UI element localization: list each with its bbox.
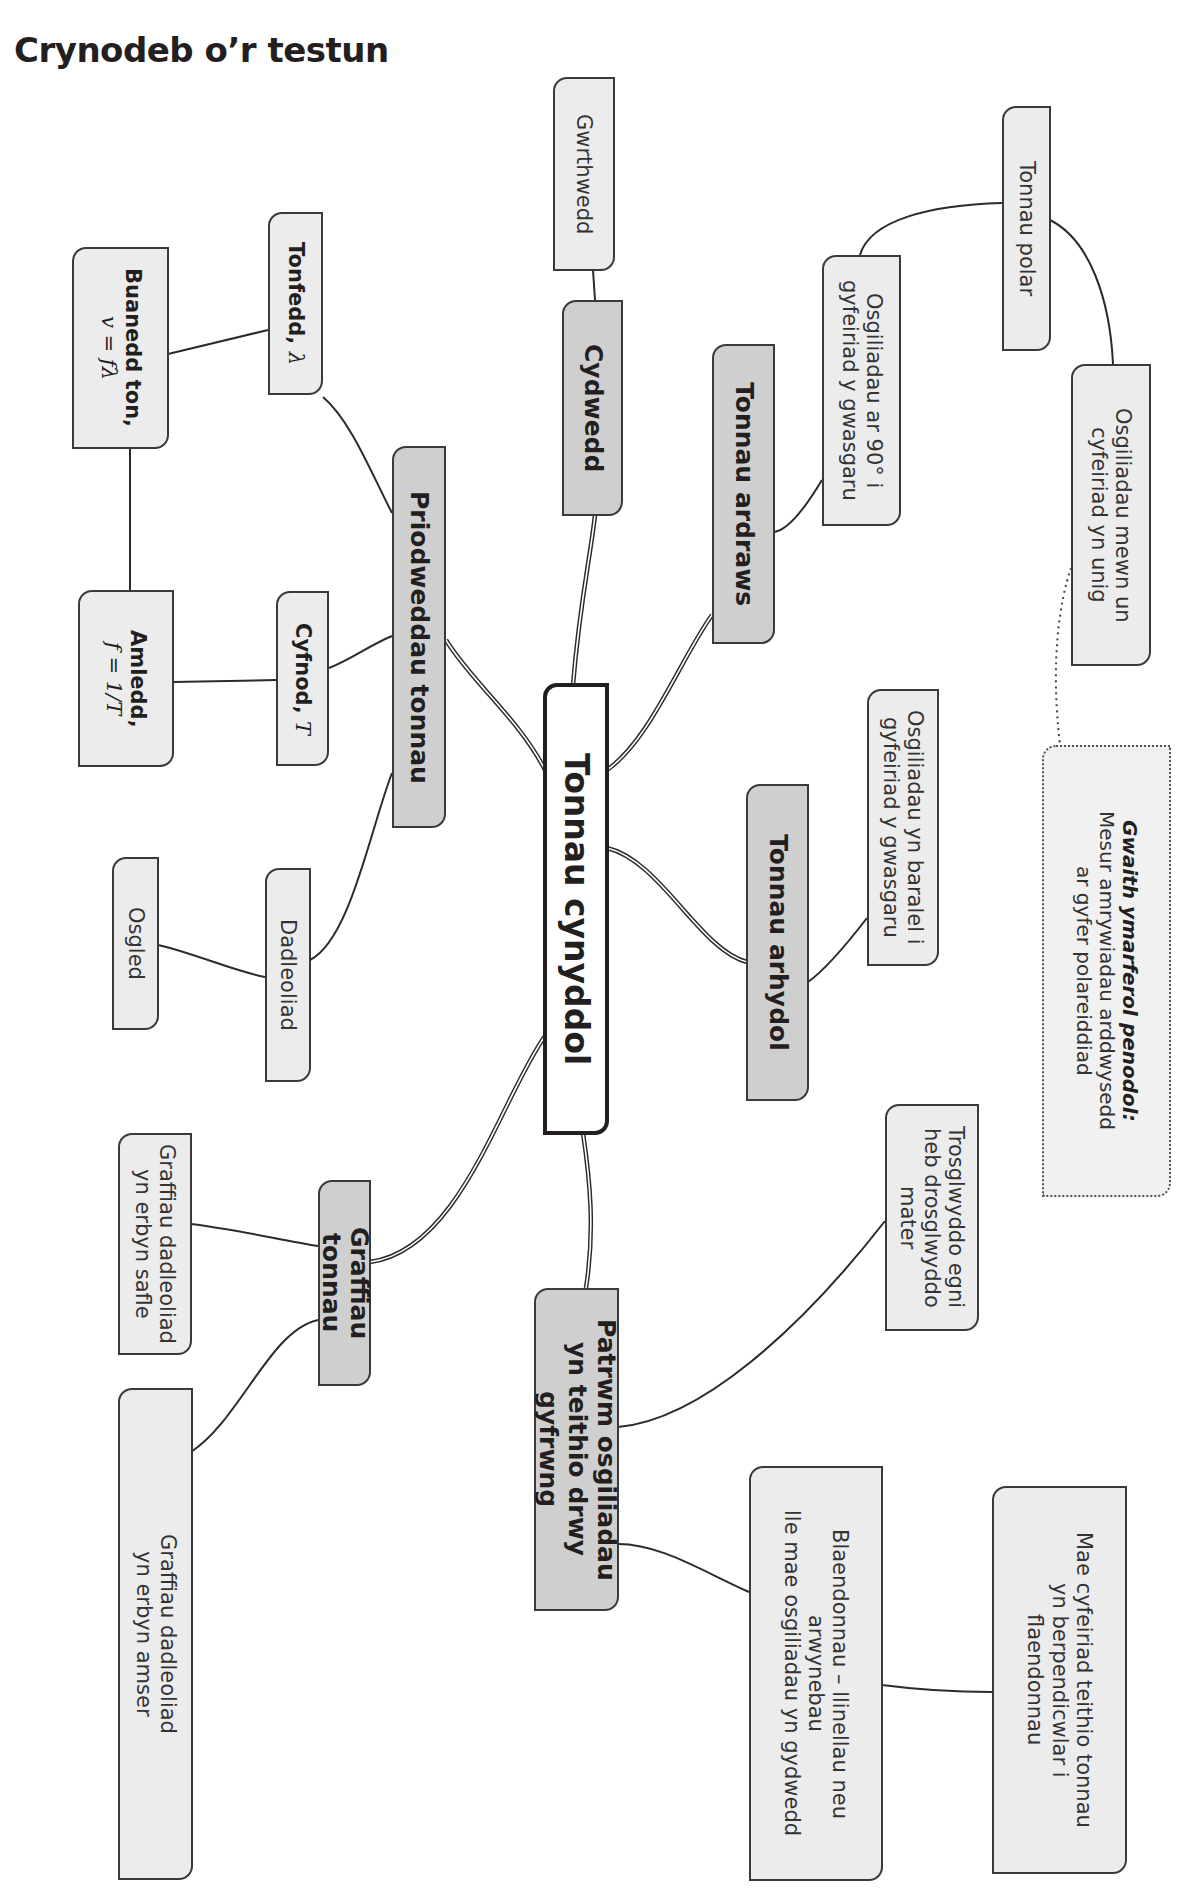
branch-transverse-waves: Tonnau ardraws bbox=[712, 344, 775, 644]
leaf-line2: yn erbyn safle bbox=[131, 1144, 155, 1344]
wave-speed-formula: v = fλ bbox=[96, 268, 120, 427]
leaf-label: Tonnau polar bbox=[1014, 161, 1038, 296]
leaf-displacement: Dadleoliad bbox=[265, 868, 311, 1082]
leaf-travel-direction: Mae cyfeiriad teithio tonnau yn berpendi… bbox=[992, 1486, 1127, 1874]
leaf-line2: gyfeiriad y gwasgaru bbox=[837, 280, 861, 501]
period-symbol: T bbox=[291, 720, 315, 734]
leaf-label: Gwrthwedd bbox=[572, 114, 596, 234]
leaf-line3: lle mae osgiliadau yn gydwedd bbox=[780, 1510, 804, 1836]
branch-label: Priodweddau tonnau bbox=[405, 491, 434, 784]
leaf-label: Amledd, bbox=[126, 630, 150, 728]
practical-note-line1: Mesur amrywiadau arddwysedd bbox=[1095, 811, 1118, 1130]
leaf-line1: Osgiliadau ar 90° i bbox=[862, 280, 886, 501]
leaf-line1: Blaendonnau – llinellau neu bbox=[828, 1510, 852, 1836]
branch-wave-properties: Priodweddau tonnau bbox=[392, 446, 446, 828]
branch-label: Tonnau ardraws bbox=[729, 382, 758, 606]
frequency-formula-lhs: f = bbox=[102, 642, 126, 674]
practical-note-line2: ar gyfer polareiddiad bbox=[1072, 811, 1095, 1130]
leaf-longitudinal-description: Osgiliadau yn baralel i gyfeiriad y gwas… bbox=[867, 689, 939, 966]
leaf-polarised-description: Osgiliadau mewn un cyfeiriad yn unig bbox=[1071, 364, 1151, 666]
leaf-graph-displacement-time: Graffiau dadleoliad yn erbyn amser bbox=[118, 1388, 193, 1880]
frequency-formula-den: T bbox=[102, 701, 126, 715]
branch-label: Tonnau arhydol bbox=[763, 834, 792, 1051]
leaf-graph-displacement-position: Graffiau dadleoliad yn erbyn safle bbox=[118, 1133, 192, 1355]
leaf-line1: Mae cyfeiriad teithio tonnau bbox=[1072, 1532, 1096, 1828]
leaf-antiphase: Gwrthwedd bbox=[553, 77, 615, 271]
branch-label-line1: Patrwm osgiliadau bbox=[591, 1290, 620, 1609]
leaf-line1: Graffiau dadleoliad bbox=[156, 1534, 180, 1734]
central-topic-label: Tonnau cynyddol bbox=[557, 753, 595, 1065]
leaf-line2: yn erbyn amser bbox=[131, 1534, 155, 1734]
practical-work-note: Gwaith ymarferol penodol: Mesur amrywiad… bbox=[1042, 745, 1171, 1197]
leaf-line2: arwynebau bbox=[804, 1510, 828, 1836]
leaf-wave-speed: Buanedd ton, v = fλ bbox=[72, 247, 169, 449]
leaf-label: Cyfnod, bbox=[291, 623, 315, 714]
leaf-line2: cyfeiriad yn unig bbox=[1087, 408, 1111, 623]
leaf-line3: flaendonnau bbox=[1023, 1532, 1047, 1828]
branch-label: Cydwedd bbox=[578, 344, 607, 472]
branch-label: Graffiau tonnau bbox=[316, 1182, 374, 1384]
leaf-line2: heb drosglwyddo mater bbox=[896, 1106, 944, 1329]
frequency-formula-num: 1 bbox=[102, 681, 126, 694]
leaf-label: Buanedd ton, bbox=[121, 268, 145, 427]
leaf-label: Dadleoliad bbox=[276, 919, 300, 1031]
practical-note-heading: Gwaith ymarferol penodol: bbox=[1118, 811, 1141, 1130]
branch-wave-graphs: Graffiau tonnau bbox=[318, 1180, 371, 1386]
leaf-energy-transfer: Trosglwyddo egni heb drosglwyddo mater bbox=[885, 1104, 979, 1331]
leaf-period: Cyfnod, T bbox=[276, 591, 329, 766]
leaf-line2: gyfeiriad y gwasgaru bbox=[879, 710, 903, 945]
leaf-transverse-description: Osgiliadau ar 90° i gyfeiriad y gwasgaru bbox=[822, 255, 901, 526]
leaf-amplitude: Osgled bbox=[112, 857, 159, 1030]
leaf-frequency: Amledd, f = 1/T bbox=[78, 590, 174, 767]
leaf-label: Tonfedd, bbox=[284, 242, 308, 344]
branch-longitudinal-waves: Tonnau arhydol bbox=[746, 784, 809, 1101]
leaf-wavefronts: Blaendonnau – llinellau neu arwynebau ll… bbox=[749, 1466, 883, 1881]
leaf-line1: Osgiliadau mewn un bbox=[1111, 408, 1135, 623]
leaf-line1: Graffiau dadleoliad bbox=[155, 1144, 179, 1344]
leaf-line2: yn berpendicwlar i bbox=[1047, 1532, 1071, 1828]
leaf-line1: Osgiliadau yn baralel i bbox=[903, 710, 927, 945]
branch-superposition: Cydwedd bbox=[562, 300, 623, 516]
central-topic: Tonnau cynyddol bbox=[543, 683, 609, 1135]
leaf-polarised-waves: Tonnau polar bbox=[1002, 106, 1051, 351]
frequency-formula: f = 1/T bbox=[102, 630, 126, 728]
leaf-line1: Trosglwyddo egni bbox=[944, 1106, 968, 1329]
leaf-label: Osgled bbox=[123, 907, 147, 980]
branch-oscillation-pattern: Patrwm osgiliadau yn teithio drwy gyfrwn… bbox=[534, 1288, 619, 1611]
wavelength-symbol: λ bbox=[284, 352, 308, 365]
branch-label-line2: yn teithio drwy gyfrwng bbox=[533, 1290, 591, 1609]
leaf-wavelength: Tonfedd, λ bbox=[268, 212, 323, 395]
